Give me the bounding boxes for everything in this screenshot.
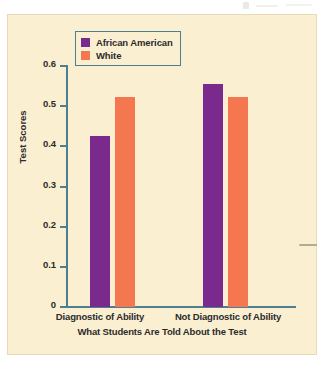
y-axis-title: Test Scores	[17, 148, 28, 164]
y-axis-tick-label: 0.2	[43, 219, 56, 230]
y-axis-tick-label: 0	[51, 299, 56, 310]
bar-white-group-0	[115, 97, 135, 307]
scan-artifact-mark	[256, 5, 278, 7]
y-axis-tick-label: 0.4	[43, 138, 56, 149]
legend-label-white: White	[96, 50, 121, 61]
x-axis-title: What Students Are Told About the Test	[0, 326, 324, 337]
chart-figure: 00.10.20.30.40.50.6 African American Whi…	[0, 0, 324, 365]
legend-label-african-american: African American	[96, 37, 173, 48]
legend-item-african-american: African American	[81, 36, 173, 48]
bar-african-american-group-1	[203, 84, 223, 307]
y-axis-tick-label: 0.6	[43, 58, 56, 69]
scan-artifact-dash	[299, 244, 317, 246]
x-axis-category-label-1: Not Diagnostic of Ability	[153, 311, 303, 322]
bar-group-container	[66, 66, 296, 307]
x-axis-category-label-0: Diagnostic of Ability	[30, 311, 170, 322]
y-axis-tick-label: 0.5	[43, 98, 56, 109]
chart-legend: African American White	[75, 31, 181, 66]
legend-swatch-african-american	[81, 38, 90, 47]
bar-african-american-group-0	[90, 136, 110, 307]
bar-white-group-1	[228, 97, 248, 307]
legend-swatch-white	[81, 51, 90, 60]
scan-artifact-mark	[243, 2, 249, 9]
y-axis-tick-label: 0.3	[43, 179, 56, 190]
legend-item-white: White	[81, 49, 173, 61]
scan-artifact-mark	[286, 4, 312, 6]
y-axis-tick-label: 0.1	[43, 259, 56, 270]
